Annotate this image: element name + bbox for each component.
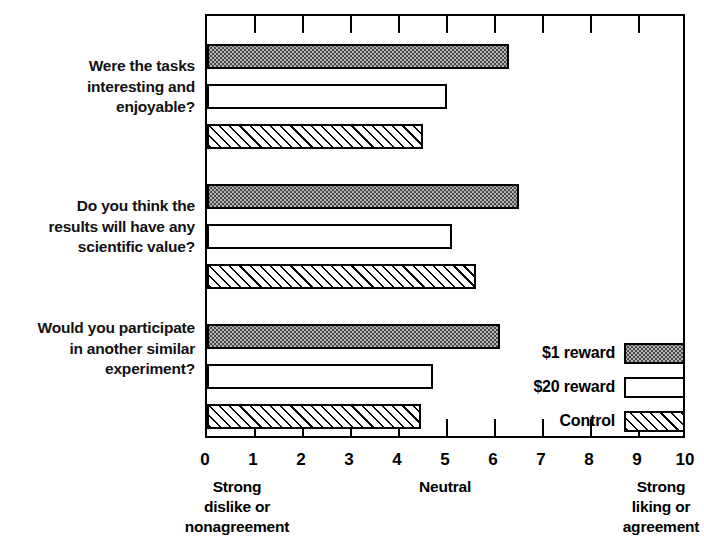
bar-group-0-series-2 (207, 124, 423, 149)
axis-tick-3 (350, 16, 352, 33)
axis-anchor-middle: Neutral (390, 477, 500, 497)
axis-tick-8 (590, 16, 592, 33)
bar-group-2-series-1 (207, 364, 433, 389)
legend-swatch-dollar1 (624, 343, 685, 364)
axis-anchor-right: Strong liking or agreement (581, 477, 704, 537)
legend-label-0: $1 reward (542, 344, 615, 362)
x-tick-label-8: 8 (569, 450, 609, 470)
bar-group-0-series-1 (207, 84, 447, 109)
x-tick-label-7: 7 (521, 450, 561, 470)
axis-tick-9 (638, 16, 640, 33)
axis-tick-5 (446, 419, 448, 436)
bar-group-1-series-2 (207, 264, 476, 289)
axis-tick-6 (494, 419, 496, 436)
category-label-1: Do you think the results will have any s… (10, 196, 195, 258)
bar-group-2-series-0 (207, 324, 500, 349)
legend-swatch-dollar20 (624, 377, 685, 398)
x-tick-label-9: 9 (617, 450, 657, 470)
x-tick-label-1: 1 (233, 450, 273, 470)
axis-tick-1 (254, 16, 256, 33)
category-label-2: Would you participate in another similar… (5, 318, 195, 380)
x-tick-label-10: 10 (665, 450, 704, 470)
bar-group-2-series-2 (207, 404, 421, 429)
legend-item-1: $20 reward (498, 370, 685, 404)
bar-group-0-series-0 (207, 44, 509, 69)
x-tick-label-3: 3 (329, 450, 369, 470)
axis-tick-2 (302, 16, 304, 33)
legend-item-2: Control (498, 404, 685, 438)
bar-group-1-series-0 (207, 184, 519, 209)
legend: $1 reward $20 reward Control (498, 336, 685, 438)
legend-swatch-control (624, 411, 685, 432)
legend-label-2: Control (560, 412, 615, 430)
x-tick-label-5: 5 (425, 450, 465, 470)
x-tick-label-0: 0 (185, 450, 225, 470)
axis-anchor-left: Strong dislike or nonagreement (157, 477, 317, 537)
category-label-0: Were the tasks interesting and enjoyable… (20, 56, 195, 118)
x-tick-label-2: 2 (281, 450, 321, 470)
x-tick-label-4: 4 (377, 450, 417, 470)
legend-label-1: $20 reward (533, 378, 615, 396)
bar-chart: Were the tasks interesting and enjoyable… (0, 0, 704, 556)
axis-tick-4 (398, 16, 400, 33)
legend-item-0: $1 reward (498, 336, 685, 370)
axis-tick-5 (446, 16, 448, 33)
x-tick-label-6: 6 (473, 450, 513, 470)
axis-tick-7 (542, 16, 544, 33)
bar-group-1-series-1 (207, 224, 452, 249)
axis-tick-6 (494, 16, 496, 33)
